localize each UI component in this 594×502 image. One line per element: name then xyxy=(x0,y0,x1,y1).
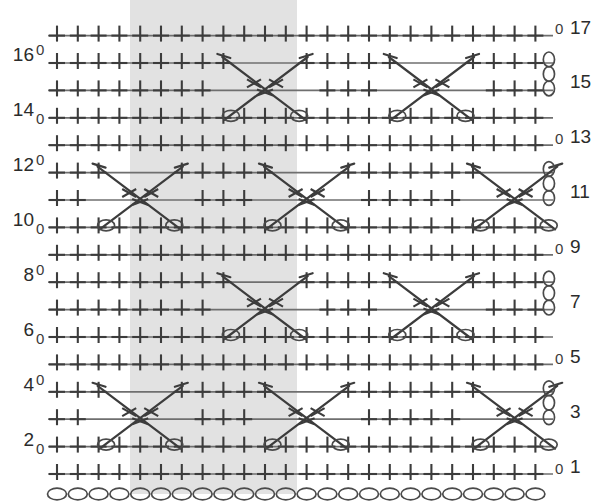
single-crochet-symbol xyxy=(91,26,107,42)
single-crochet-symbol xyxy=(403,26,419,42)
single-crochet-symbol xyxy=(403,190,419,206)
row-number-left-14: 14 xyxy=(0,100,34,119)
single-crochet-symbol xyxy=(174,80,190,96)
turn-zero-marker: 0 xyxy=(36,152,44,167)
single-crochet-symbol xyxy=(70,354,86,370)
single-crochet-symbol xyxy=(486,300,502,316)
single-crochet-symbol xyxy=(444,217,460,233)
single-crochet-symbol xyxy=(49,382,65,398)
single-crochet-symbol xyxy=(444,135,460,151)
row-number-left-10: 10 xyxy=(0,210,34,229)
single-crochet-symbol xyxy=(507,26,523,42)
single-crochet-symbol xyxy=(236,217,252,233)
single-crochet-symbol xyxy=(236,163,252,179)
chain-stitch-symbol xyxy=(297,488,316,500)
single-crochet-symbol xyxy=(215,437,231,453)
single-crochet-symbol xyxy=(382,245,398,261)
single-crochet-symbol xyxy=(486,26,502,42)
single-crochet-symbol xyxy=(153,300,169,316)
single-crochet-symbol xyxy=(507,300,523,316)
single-crochet-symbol xyxy=(215,26,231,42)
single-crochet-symbol xyxy=(278,26,294,42)
crochet-chart-page: 161412108642 1715131197531 00000000 0000… xyxy=(0,0,594,502)
turn-zero-marker: 0 xyxy=(36,372,44,387)
single-crochet-symbol xyxy=(257,26,273,42)
chain-stitch-symbol xyxy=(276,488,295,500)
single-crochet-symbol xyxy=(486,327,502,343)
single-crochet-symbol xyxy=(236,26,252,42)
single-crochet-symbol xyxy=(91,80,107,96)
single-crochet-symbol xyxy=(278,354,294,370)
single-crochet-symbol xyxy=(319,108,335,124)
turning-chain-symbol xyxy=(543,286,554,301)
single-crochet-symbol xyxy=(507,217,523,233)
single-crochet-symbol xyxy=(403,135,419,151)
single-crochet-symbol xyxy=(174,327,190,343)
turning-chain-symbol xyxy=(543,410,554,425)
single-crochet-symbol xyxy=(361,464,377,480)
single-crochet-symbol xyxy=(403,437,419,453)
single-crochet-symbol xyxy=(70,437,86,453)
single-crochet-symbol xyxy=(153,327,169,343)
single-crochet-symbol xyxy=(299,217,315,233)
single-crochet-symbol xyxy=(111,108,127,124)
single-crochet-symbol xyxy=(319,26,335,42)
single-crochet-symbol xyxy=(111,26,127,42)
single-crochet-symbol xyxy=(382,437,398,453)
single-crochet-symbol xyxy=(236,464,252,480)
single-crochet-symbol xyxy=(215,382,231,398)
single-crochet-symbol xyxy=(527,464,543,480)
single-crochet-symbol xyxy=(527,245,543,261)
row-number-left-4: 4 xyxy=(0,375,34,394)
single-crochet-symbol xyxy=(382,135,398,151)
single-crochet-symbol xyxy=(423,217,439,233)
single-crochet-symbol xyxy=(361,135,377,151)
single-crochet-symbol xyxy=(70,272,86,288)
single-crochet-symbol xyxy=(111,327,127,343)
single-crochet-symbol xyxy=(382,409,398,425)
single-crochet-symbol xyxy=(340,464,356,480)
single-crochet-symbol xyxy=(70,382,86,398)
single-crochet-symbol xyxy=(319,300,335,316)
row-number-left-12: 12 xyxy=(0,155,34,174)
single-crochet-symbol xyxy=(195,437,211,453)
single-crochet-symbol xyxy=(70,135,86,151)
single-crochet-symbol xyxy=(278,135,294,151)
single-crochet-symbol xyxy=(403,217,419,233)
chain-stitch-symbol xyxy=(68,488,87,500)
single-crochet-symbol xyxy=(423,108,439,124)
single-crochet-symbol xyxy=(257,327,273,343)
single-crochet-symbol xyxy=(340,53,356,69)
row-number-right-5: 5 xyxy=(570,347,581,366)
single-crochet-symbol xyxy=(403,245,419,261)
single-crochet-symbol xyxy=(403,464,419,480)
single-crochet-symbol xyxy=(174,26,190,42)
turning-chain-symbol xyxy=(543,67,554,82)
single-crochet-symbol xyxy=(299,464,315,480)
single-crochet-symbol xyxy=(132,53,148,69)
single-crochet-symbol xyxy=(507,327,523,343)
single-crochet-symbol xyxy=(486,245,502,261)
row-number-right-17: 17 xyxy=(570,18,591,37)
row-number-left-8: 8 xyxy=(0,265,34,284)
single-crochet-symbol xyxy=(236,354,252,370)
single-crochet-symbol xyxy=(70,26,86,42)
single-crochet-symbol xyxy=(340,327,356,343)
chain-stitch-symbol xyxy=(110,488,129,500)
chain-stitch-symbol xyxy=(484,488,503,500)
single-crochet-symbol xyxy=(153,108,169,124)
single-crochet-symbol xyxy=(49,464,65,480)
single-crochet-symbol xyxy=(361,409,377,425)
single-crochet-symbol xyxy=(507,108,523,124)
single-crochet-symbol xyxy=(195,108,211,124)
single-crochet-symbol xyxy=(361,300,377,316)
single-crochet-symbol xyxy=(70,53,86,69)
single-crochet-symbol xyxy=(195,382,211,398)
single-crochet-symbol xyxy=(299,26,315,42)
single-crochet-symbol xyxy=(361,327,377,343)
single-crochet-symbol xyxy=(319,272,335,288)
single-crochet-symbol xyxy=(215,464,231,480)
single-crochet-symbol xyxy=(257,464,273,480)
single-crochet-symbol xyxy=(278,464,294,480)
single-crochet-symbol xyxy=(111,272,127,288)
